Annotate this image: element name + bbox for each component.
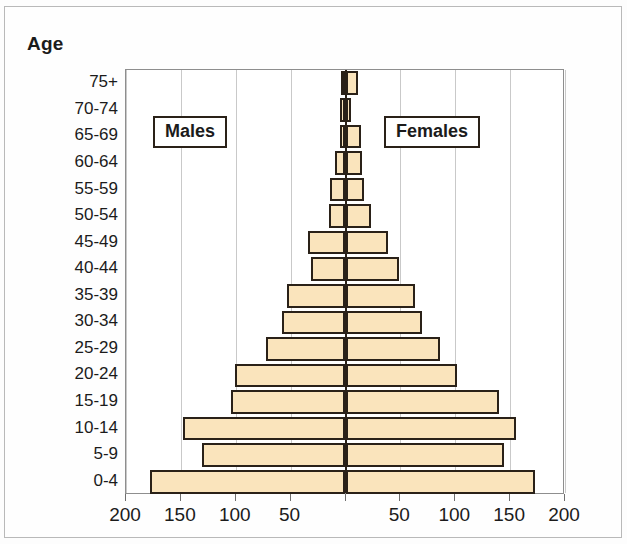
bar-male-45-49 [308, 231, 345, 255]
bar-male-25-29 [266, 337, 345, 361]
bar-female-10-14 [346, 417, 516, 441]
bar-female-50-54 [346, 204, 371, 228]
bar-female-30-34 [346, 311, 423, 335]
y-tick-label-30-34: 30-34 [10, 311, 118, 331]
center-axis-line [345, 70, 347, 493]
y-tick-label-35-39: 35-39 [10, 285, 118, 305]
x-tick [454, 494, 455, 501]
bar-male-15-19 [231, 390, 345, 414]
y-tick-label-5-9: 5-9 [10, 444, 118, 464]
bar-male-10-14 [183, 417, 345, 441]
y-tick-label-20-24: 20-24 [10, 364, 118, 384]
x-tick [564, 494, 565, 501]
y-tick-label-10-14: 10-14 [10, 418, 118, 438]
bar-male-35-39 [287, 284, 345, 308]
y-axis-labels: 75+70-7465-6960-6455-5950-5445-4940-4435… [5, 69, 118, 494]
bar-male-55-59 [330, 178, 345, 202]
page-title: Age [27, 33, 64, 55]
x-tick-label-5: 50 [389, 504, 410, 526]
x-tick [509, 494, 510, 501]
x-tick-label-3: 50 [279, 504, 300, 526]
y-tick-label-25-29: 25-29 [10, 338, 118, 358]
bar-female-15-19 [346, 390, 500, 414]
x-tick [399, 494, 400, 501]
bar-female-60-64 [346, 151, 362, 175]
y-tick-label-50-54: 50-54 [10, 205, 118, 225]
y-tick-label-15-19: 15-19 [10, 391, 118, 411]
y-tick-label-0-4: 0-4 [10, 471, 118, 491]
gridline [565, 70, 566, 493]
y-tick-label-60-64: 60-64 [10, 152, 118, 172]
x-tick-label-2: 100 [219, 504, 251, 526]
figure-frame: Age 75+70-7465-6960-6455-5950-5445-4940-… [4, 6, 622, 538]
bar-female-35-39 [346, 284, 415, 308]
bar-female-75+ [346, 71, 358, 95]
x-tick [180, 494, 181, 501]
x-tick [290, 494, 291, 501]
x-tick-label-6: 100 [438, 504, 470, 526]
bar-female-65-69 [346, 125, 361, 149]
y-tick-label-75+: 75+ [10, 72, 118, 92]
x-tick [345, 494, 346, 501]
bar-male-20-24 [235, 364, 346, 388]
bar-male-0-4 [150, 470, 345, 494]
bar-male-40-44 [311, 257, 345, 281]
bar-female-5-9 [346, 443, 504, 467]
bar-female-40-44 [346, 257, 400, 281]
y-tick-label-70-74: 70-74 [10, 99, 118, 119]
bar-male-5-9 [202, 443, 346, 467]
y-tick-label-55-59: 55-59 [10, 179, 118, 199]
plot-area: Males Females [125, 69, 564, 494]
x-tick [235, 494, 236, 501]
x-axis-ticks [125, 494, 564, 502]
bar-female-25-29 [346, 337, 440, 361]
x-tick-label-7: 150 [493, 504, 525, 526]
bar-male-50-54 [329, 204, 345, 228]
bar-female-55-59 [346, 178, 365, 202]
x-axis-labels: 2001501005050100150200 [125, 504, 564, 534]
x-tick [125, 494, 126, 501]
chart-page: Age 75+70-7465-6960-6455-5950-5445-4940-… [0, 0, 627, 544]
bar-female-0-4 [346, 470, 536, 494]
bar-female-20-24 [346, 364, 458, 388]
x-tick-label-8: 200 [548, 504, 580, 526]
bar-female-45-49 [346, 231, 389, 255]
x-tick-label-1: 150 [164, 504, 196, 526]
legend-females: Females [384, 116, 480, 148]
legend-males: Males [153, 116, 227, 148]
y-tick-label-45-49: 45-49 [10, 232, 118, 252]
bar-male-30-34 [282, 311, 346, 335]
y-tick-label-40-44: 40-44 [10, 258, 118, 278]
y-tick-label-65-69: 65-69 [10, 125, 118, 145]
x-tick-label-0: 200 [109, 504, 141, 526]
